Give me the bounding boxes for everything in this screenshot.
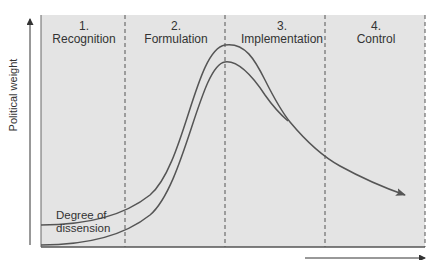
phase-3-name: Implementation: [232, 33, 332, 46]
phase-1-name: Recognition: [34, 33, 134, 46]
dissension-label-line-1: Degree of: [56, 209, 110, 222]
dissension-label-line-2: dissension: [56, 222, 110, 235]
y-axis-label-text: Political weight: [7, 59, 19, 132]
y-axis-label: Political weight: [6, 55, 20, 135]
dissension-label: Degree of dissension: [56, 209, 110, 235]
phase-3-label: 3. Implementation: [232, 20, 332, 46]
phase-2-name: Formulation: [126, 33, 226, 46]
phase-2-label: 2. Formulation: [126, 20, 226, 46]
phase-4-label: 4. Control: [326, 20, 426, 46]
phase-4-name: Control: [326, 33, 426, 46]
phase-1-label: 1. Recognition: [34, 20, 134, 46]
